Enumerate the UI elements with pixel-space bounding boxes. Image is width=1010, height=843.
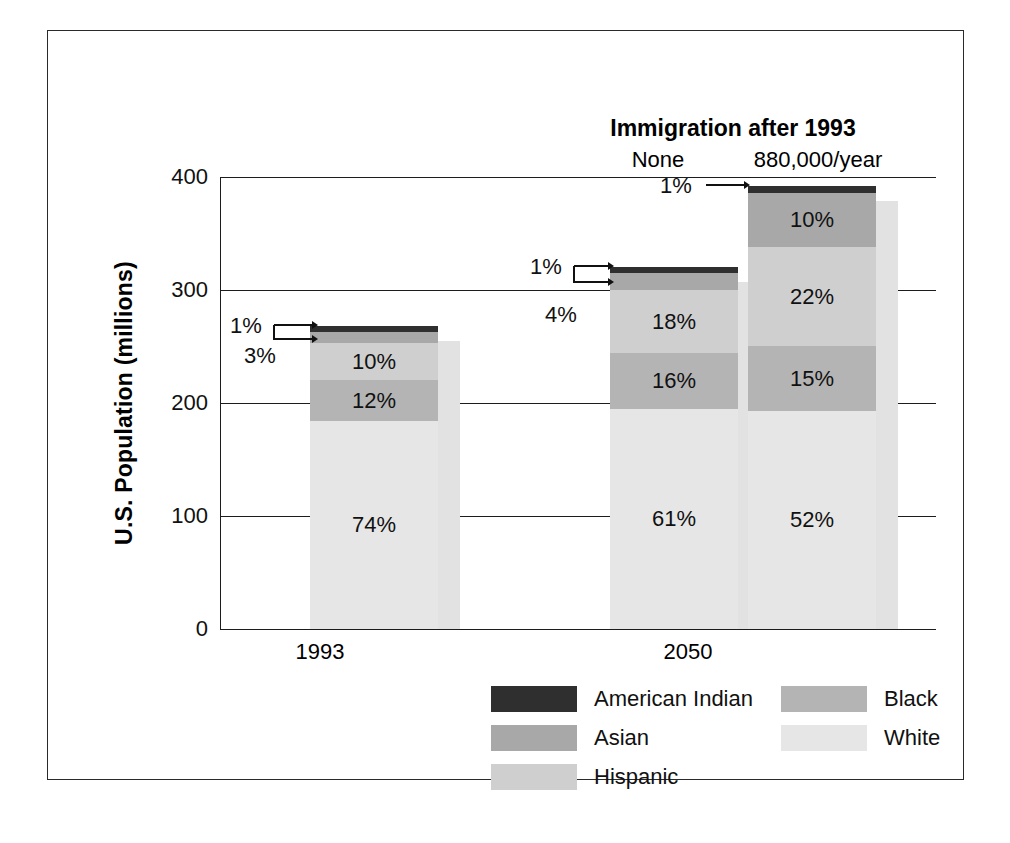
y-tick-100: 100	[171, 503, 208, 529]
segment-white[interactable]: 74%	[310, 421, 438, 629]
segment-black[interactable]: 16%	[610, 353, 738, 409]
legend-swatch-asian	[491, 725, 577, 751]
anno-1993-arrows	[272, 317, 318, 365]
legend-item-american-indian[interactable]: American Indian	[491, 686, 781, 712]
legend: American Indian Black Asian White	[491, 686, 941, 803]
gridline-400	[220, 177, 936, 178]
segment-value: 52%	[790, 507, 834, 533]
segment-black[interactable]: 15%	[748, 346, 876, 411]
anno-1993-american-indian-label: 1%	[230, 313, 262, 339]
segment-black[interactable]: 12%	[310, 380, 438, 421]
y-tick-400: 400	[171, 164, 208, 190]
y-axis-ticks: 400 300 200 100 0	[48, 177, 220, 629]
anno-2050-none-arrows	[572, 258, 614, 306]
anno-2050-880k-american-indian-label: 1%	[660, 173, 692, 199]
plot-area: 10% 12% 74% 18% 16% 61% 10% 22% 15% 52%	[220, 177, 936, 629]
segment-asian[interactable]	[610, 273, 738, 290]
segment-hispanic[interactable]: 10%	[310, 343, 438, 380]
chart-frame: Immigration after 1993 None 880,000/year…	[47, 30, 964, 780]
segment-value: 12%	[352, 388, 396, 414]
legend-label: Hispanic	[594, 764, 678, 790]
segment-value: 10%	[790, 207, 834, 233]
bar-1993[interactable]: 10% 12% 74%	[310, 326, 438, 629]
column-label-none: None	[588, 147, 728, 173]
y-tick-0: 0	[196, 616, 208, 642]
x-label-1993: 1993	[240, 639, 400, 665]
segment-hispanic[interactable]: 22%	[748, 247, 876, 346]
segment-value: 61%	[652, 506, 696, 532]
legend-item-black[interactable]: Black	[781, 686, 938, 712]
x-axis-line	[220, 629, 936, 630]
legend-row: American Indian Black	[491, 686, 941, 712]
segment-asian[interactable]	[310, 332, 438, 343]
y-tick-200: 200	[171, 390, 208, 416]
anno-2050-none-american-indian-label: 1%	[530, 254, 562, 280]
legend-row: Hispanic	[491, 764, 941, 790]
anno-2050-880k-arrow	[704, 177, 750, 197]
segment-asian[interactable]: 10%	[748, 193, 876, 247]
group-header: Immigration after 1993	[568, 115, 898, 142]
legend-swatch-hispanic	[491, 764, 577, 790]
segment-value: 74%	[352, 512, 396, 538]
column-label-880k: 880,000/year	[728, 147, 908, 173]
legend-row: Asian White	[491, 725, 941, 751]
segment-value: 18%	[652, 309, 696, 335]
legend-label: White	[884, 725, 940, 751]
bar-2050-880k[interactable]: 10% 22% 15% 52%	[748, 186, 876, 629]
segment-value: 15%	[790, 366, 834, 392]
legend-item-hispanic[interactable]: Hispanic	[491, 764, 781, 790]
bar-2050-none[interactable]: 18% 16% 61%	[610, 267, 738, 629]
segment-value: 16%	[652, 368, 696, 394]
segment-value: 10%	[352, 349, 396, 375]
chart-page: Immigration after 1993 None 880,000/year…	[0, 0, 1010, 843]
segment-hispanic[interactable]: 18%	[610, 290, 738, 353]
segment-white[interactable]: 61%	[610, 409, 738, 629]
segment-american-indian[interactable]	[748, 186, 876, 193]
legend-swatch-white	[781, 725, 867, 751]
legend-item-asian[interactable]: Asian	[491, 725, 781, 751]
legend-swatch-black	[781, 686, 867, 712]
legend-label: Asian	[594, 725, 649, 751]
segment-white[interactable]: 52%	[748, 411, 876, 629]
y-tick-300: 300	[171, 277, 208, 303]
legend-swatch-american-indian	[491, 686, 577, 712]
legend-item-white[interactable]: White	[781, 725, 940, 751]
legend-label: Black	[884, 686, 938, 712]
segment-value: 22%	[790, 284, 834, 310]
x-label-2050: 2050	[608, 639, 768, 665]
legend-label: American Indian	[594, 686, 753, 712]
